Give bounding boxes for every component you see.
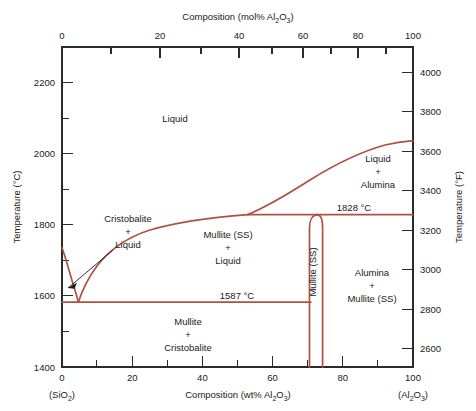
region-label-alumina-mullite-ss-plus: + (369, 280, 375, 291)
region-label-mullite-cristobalite-line1: Mullite (174, 316, 201, 327)
left-tick-label-2000: 2000 (34, 148, 55, 159)
right-axis-ticks (402, 72, 413, 348)
bottom-tick-label-80: 80 (338, 372, 349, 383)
left-axis-ticks (62, 83, 73, 368)
curve-mullite-ss-right-boundary (317, 215, 322, 367)
top-tick-label-40: 40 (234, 30, 245, 41)
region-label-mullite-ss-liquid-line3: Liquid (215, 255, 240, 266)
region-label-mullite-ss-band: Mullite (SS) (307, 247, 318, 296)
top-tick-label-0: 0 (59, 30, 64, 41)
right-axis-title: Temperature (°F) (453, 171, 464, 243)
region-label-cristobalite-liquid-plus: + (125, 226, 131, 237)
right-tick-label-2600: 2600 (420, 343, 441, 354)
region-label-mullite-ss-liquid-line1: Mullite (SS) (203, 229, 252, 240)
right-tick-label-3600: 3600 (420, 146, 441, 157)
region-label-liquid-alumina-line3: Alumina (361, 179, 396, 190)
region-label-cristobalite-liquid-line1: Cristobalite (104, 213, 152, 224)
region-label-liquid-alumina-plus: + (375, 166, 381, 177)
bottom-tick-label-40: 40 (197, 372, 208, 383)
top-tick-label-80: 80 (353, 30, 364, 41)
right-endpoint-label: (Al2O3) (398, 389, 428, 402)
curve-cristobalite-liquidus (62, 248, 78, 303)
left-tick-label-1600: 1600 (34, 290, 55, 301)
left-tick-label-1400: 1400 (34, 362, 55, 373)
bottom-tick-label-100: 100 (405, 372, 421, 383)
region-label-liquid-alumina-line1: Liquid (365, 153, 390, 164)
left-endpoint-label: (SiO2) (49, 389, 75, 402)
right-tick-label-3000: 3000 (420, 264, 441, 275)
region-label-mullite-cristobalite-line3: Cristobalite (164, 342, 212, 353)
bottom-axis-ticks (62, 356, 413, 367)
cristobalite-liquid-leader-arrow (68, 250, 113, 289)
region-label-alumina-mullite-ss-line1: Alumina (355, 267, 390, 278)
phase-boundary-curves (62, 141, 413, 367)
bottom-tick-label-20: 20 (127, 372, 138, 383)
right-tick-label-3800: 3800 (420, 106, 441, 117)
phase-diagram-svg: 0 20 40 60 80 100 Composition (mol% Al2O… (0, 0, 476, 411)
top-tick-label-100: 100 (405, 30, 421, 41)
top-tick-label-20: 20 (155, 30, 166, 41)
curve-alumina-liquidus (248, 141, 413, 215)
top-axis-title: Composition (mol% Al2O3) (182, 11, 293, 24)
right-tick-label-2800: 2800 (420, 304, 441, 315)
region-label-liquid: Liquid (162, 113, 187, 124)
right-tick-label-4000: 4000 (420, 67, 441, 78)
left-axis-title: Temperature (°C) (11, 171, 22, 244)
top-axis-ticks (62, 47, 413, 58)
region-label-mullite-cristobalite-plus: + (185, 329, 191, 340)
annotation-peritectic-temperature: 1828 °C (337, 202, 372, 213)
top-tick-label-60: 60 (298, 30, 309, 41)
bottom-tick-label-0: 0 (59, 372, 64, 383)
phase-diagram-figure: 0 20 40 60 80 100 Composition (mol% Al2O… (0, 0, 476, 411)
right-tick-label-3200: 3200 (420, 225, 441, 236)
region-label-cristobalite-liquid-line3: Liquid (115, 239, 140, 250)
annotation-eutectic-temperature: 1587 °C (220, 290, 255, 301)
bottom-axis-title: Composition (wt% Al2O3) (185, 389, 291, 402)
left-tick-label-2200: 2200 (34, 77, 55, 88)
left-tick-label-1800: 1800 (34, 219, 55, 230)
region-label-alumina-mullite-ss-line3: Mullite (SS) (347, 293, 396, 304)
region-label-mullite-ss-liquid-plus: + (225, 242, 231, 253)
right-tick-label-3400: 3400 (420, 185, 441, 196)
bottom-tick-label-60: 60 (267, 372, 278, 383)
